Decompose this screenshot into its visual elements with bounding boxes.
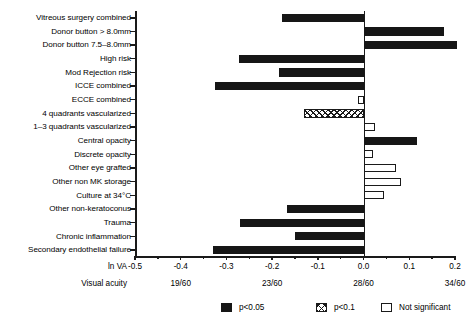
legend-swatch-ns <box>381 303 392 312</box>
x-axis-tick-label: -0.3 <box>206 262 246 271</box>
plot-area <box>135 11 455 257</box>
category-tick <box>130 154 135 155</box>
category-label: Other eye grafted <box>69 163 131 172</box>
bar <box>240 219 363 227</box>
bar <box>364 27 444 35</box>
category-label: Other non-keratoconus <box>49 204 131 213</box>
category-tick <box>130 126 135 127</box>
legend-swatch-marg <box>316 303 327 312</box>
category-label: ICCE combined <box>75 81 131 90</box>
bar <box>239 55 363 63</box>
legend-label: p<0.1 <box>334 303 355 312</box>
legend-swatch-sig <box>221 303 232 312</box>
bar <box>358 96 364 104</box>
x-axis-tick <box>363 256 364 260</box>
bar-row <box>135 107 455 121</box>
bar <box>295 232 364 240</box>
bar <box>282 14 363 22</box>
bar <box>287 205 364 213</box>
category-label: Vitreous surgery combined <box>36 13 131 22</box>
x-axis-tick-label: 0.2 <box>435 262 470 271</box>
category-tick <box>130 222 135 223</box>
category-label: Discrete opacity <box>74 150 131 159</box>
category-tick <box>130 44 135 45</box>
x-axis-minor-tick <box>203 256 204 259</box>
x-axis-tick-label: -0.2 <box>252 262 292 271</box>
x-axis-tick <box>226 256 227 260</box>
bar-row <box>135 93 455 107</box>
bar-row <box>135 243 455 257</box>
category-label: Trauma <box>104 218 131 227</box>
legend-item: p<0.1 <box>316 303 355 312</box>
secondary-axis-tick-label: 23/60 <box>252 279 292 288</box>
category-label: High risk <box>100 54 131 63</box>
category-label: 4 quadrants vascularized <box>42 109 131 118</box>
bar-row <box>135 25 455 39</box>
x-axis-minor-tick <box>249 256 250 259</box>
category-tick <box>130 17 135 18</box>
bar <box>364 164 396 172</box>
x-axis-minor-tick <box>157 256 158 259</box>
bar-row <box>135 134 455 148</box>
bar <box>213 246 364 254</box>
legend-label: p<0.05 <box>239 303 264 312</box>
bar <box>364 41 458 49</box>
bar-row <box>135 66 455 80</box>
x-axis-tick <box>409 256 410 260</box>
bar-row <box>135 52 455 66</box>
bar <box>364 150 373 158</box>
secondary-axis-tick-label: 34/60 <box>435 279 470 288</box>
bar-row <box>135 148 455 162</box>
bar-row <box>135 38 455 52</box>
category-label: Secondary endothelial failure <box>28 245 131 254</box>
secondary-axis-tick-label: 28/60 <box>344 279 384 288</box>
category-tick <box>130 181 135 182</box>
x-axis-tick-label: 0.1 <box>389 262 429 271</box>
category-label: Central opacity <box>78 136 131 145</box>
x-axis-tick-label: 0.0 <box>344 262 384 271</box>
category-tick <box>130 31 135 32</box>
x-axis-tick <box>134 256 135 260</box>
category-tick <box>130 99 135 100</box>
category-tick <box>130 208 135 209</box>
legend-item: Not significant <box>381 303 450 312</box>
bar <box>364 178 401 186</box>
bar <box>364 123 376 131</box>
bar-row <box>135 175 455 189</box>
legend-label: Not significant <box>399 303 450 312</box>
legend: p<0.05p<0.1Not significant <box>0 303 462 319</box>
x-axis-minor-tick <box>431 256 432 259</box>
category-tick <box>130 140 135 141</box>
category-tick <box>130 249 135 250</box>
category-label: Chronic inflammation <box>56 232 131 241</box>
bar-row <box>135 230 455 244</box>
x-axis-title: ln VA <box>67 262 127 271</box>
category-label: Culture at 34°C <box>76 191 131 200</box>
bar-row <box>135 11 455 25</box>
x-axis-tick <box>454 256 455 260</box>
category-label: Other non MK storage <box>52 177 131 186</box>
bar-row <box>135 189 455 203</box>
x-axis-tick-label: -0.4 <box>161 262 201 271</box>
bar-row <box>135 216 455 230</box>
x-axis-tick-label: -0.1 <box>298 262 338 271</box>
bar-rows <box>135 11 455 257</box>
bar <box>304 109 364 117</box>
x-axis-tick <box>271 256 272 260</box>
category-label: ECCE combined <box>72 95 131 104</box>
bar <box>215 82 363 90</box>
category-tick <box>130 236 135 237</box>
bar <box>364 191 384 199</box>
x-axis-minor-tick <box>294 256 295 259</box>
category-tick <box>130 72 135 73</box>
category-tick <box>130 167 135 168</box>
x-axis-tick <box>180 256 181 260</box>
category-label: Donor button 7.5–8.0mm <box>43 40 131 49</box>
secondary-axis-title: Visual acuity <box>55 279 127 288</box>
category-tick <box>130 85 135 86</box>
bar <box>279 68 364 76</box>
category-label: Donor button > 8.0mm <box>51 27 131 36</box>
category-tick <box>130 58 135 59</box>
legend-item: p<0.05 <box>221 303 264 312</box>
